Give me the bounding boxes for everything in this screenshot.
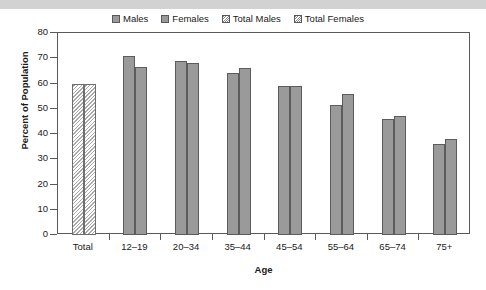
x-axis-separator [109, 234, 110, 240]
plot-area [57, 32, 470, 234]
legend-label: Females [172, 14, 208, 24]
y-axis-tick [50, 209, 57, 210]
y-axis-tick-label: 50 [22, 103, 48, 113]
legend-swatch-icon [112, 15, 120, 23]
y-axis-tick-label: 80 [22, 27, 48, 37]
y-axis-tick-label: 40 [22, 128, 48, 138]
legend-item-total-females: Total Females [294, 14, 364, 24]
y-axis-tick-label: 0 [22, 229, 48, 239]
y-axis-tick [50, 133, 57, 134]
bar [394, 116, 406, 235]
x-axis-separator [315, 234, 316, 240]
x-axis-tick-label: 45–54 [264, 242, 316, 252]
bar [175, 61, 187, 235]
legend-item-females: Females [161, 14, 208, 24]
bar [239, 68, 251, 235]
y-axis-tick-label: 70 [22, 52, 48, 62]
bar [382, 119, 394, 235]
bar [290, 86, 302, 235]
legend-item-males: Males [112, 14, 148, 24]
legend-item-total-males: Total Males [222, 14, 281, 24]
x-axis-separator [160, 234, 161, 240]
x-axis-tick-label: Total [57, 242, 109, 252]
legend-label: Total Females [305, 14, 364, 24]
x-axis-separator [212, 234, 213, 240]
legend-swatch-hatched-icon [222, 15, 230, 23]
legend-swatch-hatched-icon [294, 15, 302, 23]
bar [433, 144, 445, 235]
y-axis-tick-label: 60 [22, 78, 48, 88]
x-axis-separator [264, 234, 265, 240]
y-axis-tick [50, 83, 57, 84]
x-axis-separator [418, 234, 419, 240]
bar [445, 139, 457, 235]
top-banner [0, 0, 486, 9]
y-axis-tick [50, 108, 57, 109]
y-axis-tick [50, 234, 57, 235]
bar [278, 86, 290, 235]
legend-swatch-icon [161, 15, 169, 23]
chart-figure: Males Females Total Males Total Females … [0, 0, 486, 290]
y-axis-tick [50, 57, 57, 58]
bar [135, 67, 147, 235]
x-axis-title: Age [57, 264, 470, 275]
bar [342, 94, 354, 235]
bar [72, 84, 84, 236]
x-axis-tick-label: 75+ [418, 242, 470, 252]
x-axis-tick-label: 35–44 [212, 242, 264, 252]
x-axis-tick-label: 20–34 [160, 242, 212, 252]
y-axis-tick-label: 20 [22, 179, 48, 189]
x-axis-tick-label: 12–19 [109, 242, 161, 252]
bar [330, 105, 342, 235]
x-axis-separator [367, 234, 368, 240]
x-axis-tick-label: 55–64 [315, 242, 367, 252]
x-axis-tick-label: 65–74 [367, 242, 419, 252]
bar [84, 84, 96, 236]
y-axis-tick [50, 158, 57, 159]
y-axis-tick [50, 32, 57, 33]
legend-label: Males [123, 14, 148, 24]
y-axis-tick-label: 30 [22, 153, 48, 163]
y-axis-tick-label: 10 [22, 204, 48, 214]
legend-label: Total Males [233, 14, 281, 24]
bar [227, 73, 239, 235]
y-axis-tick [50, 184, 57, 185]
chart-legend: Males Females Total Males Total Females [112, 12, 412, 26]
bar [187, 63, 199, 235]
bar [123, 56, 135, 235]
